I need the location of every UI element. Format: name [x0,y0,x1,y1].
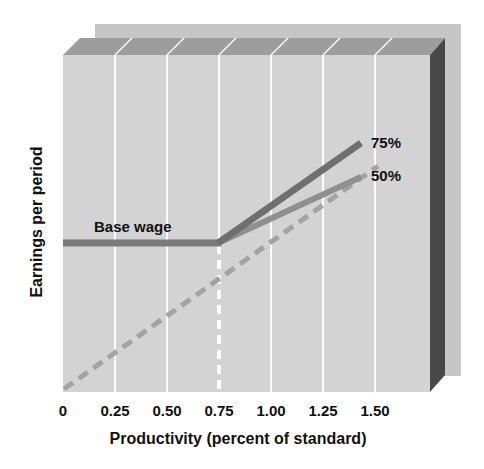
incentive-plan-chart: Base wage 75% 50% 0 0.25 0.50 0.75 1.00 … [0,0,484,469]
x-axis-ticks: 0 0.25 0.50 0.75 1.00 1.25 1.50 [59,402,390,419]
x-tick: 0 [59,402,67,419]
x-tick: 1.00 [256,402,285,419]
x-tick: 1.25 [308,402,337,419]
x-axis-label: Productivity (percent of standard) [110,430,367,447]
x-tick: 1.50 [360,402,389,419]
label-75pct: 75% [371,134,401,151]
x-tick: 0.25 [100,402,129,419]
side-face [430,38,445,392]
y-axis-label: Earnings per period [28,146,45,297]
top-face [63,38,445,55]
x-tick: 0.50 [152,402,181,419]
label-50pct: 50% [371,167,401,184]
x-tick: 0.75 [204,402,233,419]
label-base-wage: Base wage [94,218,172,235]
